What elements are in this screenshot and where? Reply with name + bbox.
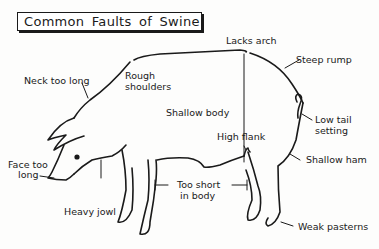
label-low-tail-1: Low tail [315, 115, 352, 126]
label-weak-pasterns: Weak pasterns [298, 222, 368, 233]
label-rough-shoulders-2: shoulders [125, 82, 171, 93]
label-steep-rump: Steep rump [296, 55, 352, 66]
label-shallow-ham: Shallow ham [306, 155, 367, 166]
swine-faults-diagram: Common Faults of Swine [0, 0, 379, 249]
face [48, 145, 74, 180]
leader-face [40, 176, 54, 178]
belly [157, 156, 244, 167]
label-lacks-arch: Lacks arch [226, 36, 277, 47]
front-leg-2 [140, 160, 157, 234]
leader-shallow-ham [290, 154, 300, 160]
label-low-tail-2: setting [315, 126, 348, 137]
ham [266, 103, 303, 226]
label-shallow-body: Shallow body [166, 108, 229, 119]
ear [48, 118, 84, 150]
eye [75, 155, 79, 159]
leader-low-tail [302, 114, 312, 120]
label-too-short-1: Too short [177, 180, 220, 191]
bracket-right [232, 180, 247, 190]
neck-line [74, 62, 130, 118]
label-too-short-2: in body [180, 191, 215, 202]
label-rough-shoulders-1: Rough [125, 71, 155, 82]
front-leg-1 [118, 150, 133, 222]
leader-weak-pasterns [281, 222, 293, 226]
label-face-too-long-2: long [18, 170, 39, 181]
jowl [74, 145, 126, 174]
bracket-left [155, 180, 168, 190]
back-line [134, 50, 246, 60]
label-neck-too-long: Neck too long [24, 76, 90, 87]
label-high-flank: High flank [217, 132, 265, 143]
label-heavy-jowl: Heavy jowl [64, 207, 116, 218]
hind-leg-1 [246, 152, 261, 220]
